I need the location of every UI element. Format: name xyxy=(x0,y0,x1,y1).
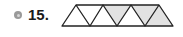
triangle-strip-figure xyxy=(0,0,183,37)
